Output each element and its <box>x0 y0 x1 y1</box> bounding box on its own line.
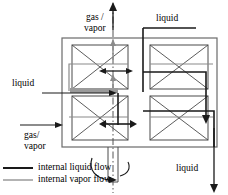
internal-liquid-flow-paths <box>118 28 214 147</box>
label-liquid-inlet-top: liquid <box>156 13 178 24</box>
legend-label-vapor: internal vapor flow <box>38 174 111 185</box>
packing-bed-top-left <box>72 45 128 89</box>
label-liquid-outlet-bottom: liquid <box>176 163 198 174</box>
internal-vapor-flow-paths <box>69 39 213 117</box>
label-gas-vapor-inlet: gas/ vapor <box>24 130 46 151</box>
packing-bed-bottom-left <box>72 96 128 140</box>
gas-vapor-inlet-arrow <box>20 122 63 128</box>
packing-bed-bottom-right <box>150 96 208 140</box>
liquid-outlet-bottom-arrow <box>202 115 218 193</box>
packing-bed-top-right <box>150 45 208 89</box>
figure-root: gas / vapor liquid liquid gas/ vapor liq… <box>0 0 228 195</box>
countercurrent-arrow-upper <box>99 68 133 74</box>
label-liquid-inlet-left: liquid <box>12 78 34 89</box>
label-gas-vapor-outlet: gas / vapor <box>84 12 106 33</box>
legend-label-liquid: internal liquid flow <box>38 162 111 173</box>
gas-vapor-outlet-arrow <box>109 2 117 30</box>
